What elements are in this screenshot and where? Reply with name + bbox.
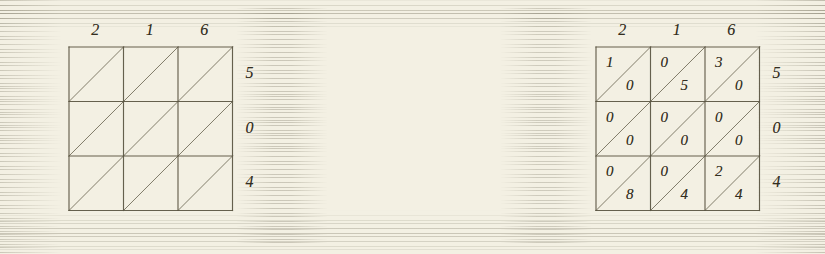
multiplier-digit-right: 4: [246, 174, 254, 190]
lattice-panel-stage-1: 216504: [0, 0, 270, 254]
lattice-diagonal: [178, 156, 233, 211]
multiplicand-digit-top: 2: [91, 22, 99, 38]
lattice-diagonal: [69, 156, 124, 211]
lattice-diagonal: [69, 102, 124, 157]
lattice-diagonal: [124, 47, 179, 102]
multiplicand-digit-top: 6: [200, 22, 208, 38]
multiplier-digit-right: 5: [246, 65, 254, 81]
multiplier-digit-right: 0: [246, 120, 254, 136]
lattice-grid-stage-1: 216504: [68, 46, 232, 210]
lattice-rules: [68, 46, 234, 212]
lattice-diagonal: [178, 102, 233, 157]
lattice-panel-stage-2: 100530000000080424216504: [265, 0, 537, 254]
lattice-diagonal: [124, 156, 179, 211]
lattice-diagonal: [69, 47, 124, 102]
multiplicand-digit-top: 1: [146, 22, 154, 38]
lattice-diagonal: [124, 102, 179, 157]
lattice-panel-stage-3: 100530000000080424216504108864: [530, 0, 825, 254]
lattice-cells: 216504: [68, 46, 232, 210]
lattice-diagonal: [178, 47, 233, 102]
